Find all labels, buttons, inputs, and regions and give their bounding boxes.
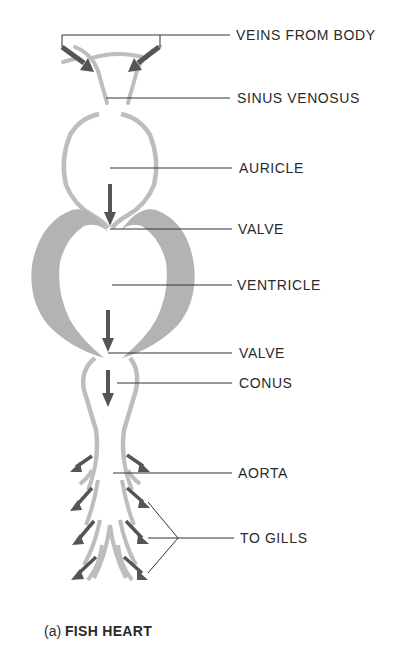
label-sinus-venosus: SINUS VENOSUS	[237, 91, 360, 105]
flow-arrows	[102, 184, 116, 407]
label-valve-2: VALVE	[239, 346, 285, 360]
vein-arrows	[62, 47, 159, 72]
caption-prefix: (a)	[44, 623, 61, 639]
label-ventricle: VENTRICLE	[237, 278, 321, 292]
label-veins-from-body: VEINS FROM BODY	[236, 28, 376, 42]
label-valve-1: VALVE	[238, 222, 284, 236]
label-auricle: AURICLE	[239, 161, 304, 175]
ventricle-wall	[31, 209, 194, 358]
label-to-gills: TO GILLS	[240, 531, 308, 545]
figure-caption: (a) FISH HEART	[44, 623, 152, 639]
label-conus: CONUS	[239, 376, 293, 390]
gill-arrows	[70, 455, 150, 580]
conus-wall	[83, 358, 137, 460]
label-aorta: AORTA	[238, 466, 288, 480]
caption-title: FISH HEART	[65, 623, 152, 639]
